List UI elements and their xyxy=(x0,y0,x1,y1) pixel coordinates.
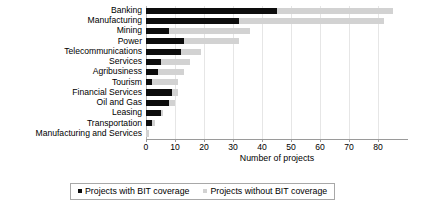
bar-segment-without-bit xyxy=(172,89,178,95)
bar-segment-with-bit xyxy=(146,38,184,44)
x-axis-title: Number of projects xyxy=(146,153,408,164)
category-label: Manufacturing and Services xyxy=(0,129,142,139)
category-label: Transportation xyxy=(0,119,142,129)
bar-row xyxy=(146,26,407,36)
x-tick-label: 40 xyxy=(257,142,267,153)
bar-segment-with-bit xyxy=(146,18,239,24)
x-tick-label: 30 xyxy=(228,142,238,153)
bar-segment-with-bit xyxy=(146,69,158,75)
plot-area xyxy=(146,6,407,139)
bar-row xyxy=(146,57,407,67)
category-label: Mining xyxy=(0,26,142,36)
bar-segment-without-bit xyxy=(277,8,393,14)
category-axis-labels: BankingManufacturingMiningPowerTelecommu… xyxy=(0,6,142,139)
bar-segment-with-bit xyxy=(146,8,277,14)
x-tick-label: 60 xyxy=(315,142,325,153)
category-label: Banking xyxy=(0,6,142,16)
bar-segment-without-bit xyxy=(239,18,384,24)
bar-segment-without-bit xyxy=(169,28,250,34)
bar-row xyxy=(146,16,407,26)
bar-segment-with-bit xyxy=(146,89,172,95)
chart-legend: Projects with BIT coverage Projects with… xyxy=(70,183,335,200)
bar-rows xyxy=(146,6,407,139)
bar-row xyxy=(146,37,407,47)
x-axis-ticks: 01020304050607080 xyxy=(146,140,408,152)
bar-row xyxy=(146,98,407,108)
category-label: Agribusiness xyxy=(0,67,142,77)
bar-segment-without-bit xyxy=(169,100,175,106)
x-tick-label: 0 xyxy=(144,142,149,153)
bar-row xyxy=(146,129,407,139)
category-label: Services xyxy=(0,57,142,67)
bar-segment-without-bit xyxy=(152,120,155,126)
bar-row xyxy=(146,88,407,98)
legend-label-with-bit: Projects with BIT coverage xyxy=(85,186,189,197)
bar-segment-without-bit xyxy=(161,59,190,65)
bar-row xyxy=(146,47,407,57)
x-tick-label: 80 xyxy=(373,142,383,153)
bar-segment-without-bit xyxy=(181,49,201,55)
x-tick-label: 20 xyxy=(199,142,209,153)
category-label: Manufacturing xyxy=(0,16,142,26)
bar-segment-without-bit xyxy=(152,79,178,85)
bar-segment-with-bit xyxy=(146,59,161,65)
legend-swatch-with-bit xyxy=(78,189,82,193)
x-tick-label: 10 xyxy=(170,142,180,153)
category-label: Financial Services xyxy=(0,88,142,98)
bar-segment-with-bit xyxy=(146,100,169,106)
bar-segment-without-bit xyxy=(184,38,239,44)
bar-row xyxy=(146,119,407,129)
bar-segment-with-bit xyxy=(146,49,181,55)
bar-segment-without-bit xyxy=(158,69,184,75)
bar-row xyxy=(146,108,407,118)
bar-segment-with-bit xyxy=(146,28,169,34)
category-label: Telecommunications xyxy=(0,47,142,57)
legend-item-without-bit[interactable]: Projects without BIT coverage xyxy=(203,186,327,197)
legend-swatch-without-bit xyxy=(203,189,207,193)
category-label: Oil and Gas xyxy=(0,98,142,108)
legend-label-without-bit: Projects without BIT coverage xyxy=(210,186,327,197)
x-tick-label: 70 xyxy=(344,142,354,153)
category-label: Power xyxy=(0,37,142,47)
category-label: Leasing xyxy=(0,108,142,118)
bar-row xyxy=(146,6,407,16)
bar-row xyxy=(146,78,407,88)
legend-item-with-bit[interactable]: Projects with BIT coverage xyxy=(78,186,189,197)
bar-row xyxy=(146,67,407,77)
bar-segment-without-bit xyxy=(146,130,149,136)
stacked-bar-chart: BankingManufacturingMiningPowerTelecommu… xyxy=(0,0,431,208)
category-label: Tourism xyxy=(0,78,142,88)
x-tick-label: 50 xyxy=(286,142,296,153)
bar-segment-with-bit xyxy=(146,110,161,116)
bar-segment-without-bit xyxy=(161,110,164,116)
